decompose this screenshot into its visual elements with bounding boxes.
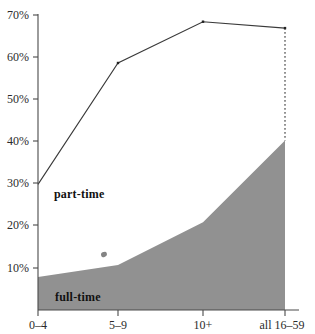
x-tick-label-10-plus: 10+ [173, 319, 233, 331]
y-tick-label-50: 50% [0, 93, 29, 105]
chart-container: 70% 60% 50% 40% 30% 20% 10% 0–4 5–9 10+ … [0, 0, 315, 334]
y-tick-label-70: 70% [0, 9, 29, 21]
chart-plot-area [0, 0, 315, 334]
x-tick-label-0-4: 0–4 [8, 319, 68, 331]
part-time-series-label: part-time [54, 188, 104, 200]
full-time-area-series [38, 141, 285, 310]
x-tick-label-5-9: 5–9 [88, 319, 148, 331]
y-tick-label-40: 40% [0, 135, 29, 147]
x-tick-label-all-16-59: all 16–59 [250, 319, 314, 331]
data-point-marker [117, 62, 119, 64]
data-point-marker [202, 21, 204, 23]
y-tick-label-60: 60% [0, 51, 29, 63]
y-tick-label-20: 20% [0, 219, 29, 231]
y-tick-label-30: 30% [0, 177, 29, 189]
full-time-series-label: full-time [55, 291, 101, 303]
part-time-line-series [38, 22, 285, 185]
data-point-marker [284, 27, 286, 29]
y-tick-label-10: 10% [0, 262, 29, 274]
